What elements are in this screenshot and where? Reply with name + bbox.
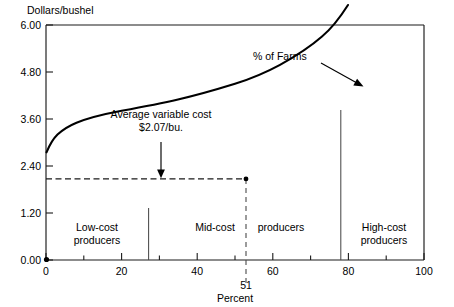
- region-label-mid-cost-line2: producers: [258, 221, 305, 233]
- y-tick-label-600: 6.00: [21, 19, 42, 31]
- y-tick-label-000: 0.00: [21, 254, 42, 266]
- supply-curve-chart: Dollars/bushel 6.00 4.80 3.60 2.40 1.20 …: [0, 0, 454, 307]
- x-tick-label-0: 0: [43, 265, 49, 277]
- region-label-low-cost-line1: Low-cost: [76, 221, 118, 233]
- percent-of-farms-curve: [47, 5, 349, 152]
- y-tick-label-480: 4.80: [21, 66, 42, 78]
- avg-cost-annotation-line1: Average variable cost: [111, 108, 212, 120]
- y-tick-label-360: 3.60: [21, 113, 42, 125]
- origin-marker: [44, 257, 49, 262]
- avg-cost-annotation-line2: $2.07/bu.: [139, 121, 183, 133]
- x-tick-label-60: 60: [267, 265, 279, 277]
- region-label-high-cost-line1: High-cost: [362, 221, 406, 233]
- region-label-high-cost-line2: producers: [361, 234, 408, 246]
- intersection-marker: [244, 177, 249, 182]
- y-tick-label-120: 1.20: [21, 207, 42, 219]
- x-axis-title: Percent: [217, 292, 253, 304]
- region-label-low-cost-line2: producers: [74, 234, 121, 246]
- x-tick-label-100: 100: [415, 265, 433, 277]
- region-label-mid-cost-line1: Mid-cost: [195, 221, 235, 233]
- x-tick-label-20: 20: [116, 265, 128, 277]
- y-axis-title: Dollars/bushel: [27, 4, 94, 16]
- x-tick-label-80: 80: [343, 265, 355, 277]
- series-callout-arrow: [321, 63, 364, 87]
- avg-cost-annotation-arrow: [157, 142, 165, 178]
- y-tick-label-240: 2.40: [21, 160, 42, 172]
- x-tick-label-40: 40: [191, 265, 203, 277]
- series-callout-label: % of Farms: [253, 50, 307, 62]
- x-axis-ticks: [46, 253, 424, 260]
- chart-container: Dollars/bushel 6.00 4.80 3.60 2.40 1.20 …: [0, 0, 454, 307]
